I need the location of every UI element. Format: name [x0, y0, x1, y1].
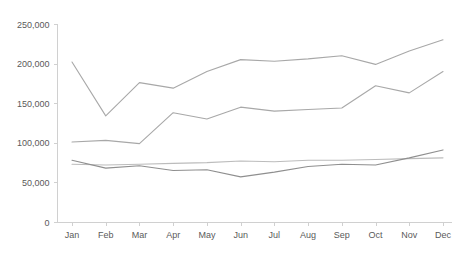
- series-line-series-4: [72, 150, 443, 177]
- y-axis-group: 050,000100,000150,000200,000250,000: [17, 20, 58, 228]
- y-axis-tick-label: 250,000: [17, 20, 50, 30]
- x-axis-tick-label: Jul: [269, 230, 281, 240]
- series-line-series-2: [72, 72, 443, 144]
- x-axis-tick-label: Aug: [300, 230, 316, 240]
- x-axis-tick-label: Jun: [233, 230, 248, 240]
- chart-canvas: 050,000100,000150,000200,000250,000 JanF…: [0, 0, 472, 263]
- line-chart: 050,000100,000150,000200,000250,000 JanF…: [0, 0, 472, 263]
- x-axis-tick-label: Sep: [334, 230, 350, 240]
- x-axis-tick-label: Jan: [65, 230, 80, 240]
- x-axis-tick-label: Nov: [401, 230, 418, 240]
- y-axis-tick-label: 50,000: [22, 178, 50, 188]
- x-axis-group: JanFebMarAprMayJunJulAugSepOctNovDec: [58, 222, 453, 240]
- y-axis-ticks: 050,000100,000150,000200,000250,000: [17, 20, 58, 228]
- x-axis-tick-label: Dec: [435, 230, 452, 240]
- x-axis-ticks: JanFebMarAprMayJunJulAugSepOctNovDec: [65, 222, 452, 240]
- y-axis-tick-label: 0: [44, 218, 49, 228]
- y-axis-tick-label: 200,000: [17, 59, 50, 69]
- y-axis-tick-label: 150,000: [17, 99, 50, 109]
- x-axis-tick-label: Feb: [98, 230, 114, 240]
- series-line-series-3: [72, 158, 443, 165]
- x-axis-tick-label: Oct: [369, 230, 384, 240]
- x-axis-tick-label: May: [198, 230, 216, 240]
- x-axis-tick-label: Apr: [166, 230, 180, 240]
- x-axis-tick-label: Mar: [132, 230, 148, 240]
- y-axis-tick-label: 100,000: [17, 138, 50, 148]
- series-line-series-1: [72, 40, 443, 116]
- series-lines: [72, 40, 443, 177]
